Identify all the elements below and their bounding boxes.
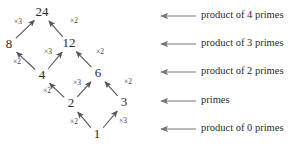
diagram-node-1: 1	[94, 126, 101, 141]
edge-multiplier-label: ×3	[44, 47, 52, 56]
edge-multiplier-label: ×3	[73, 78, 81, 87]
edge-multiplier-label: ×2	[96, 47, 104, 56]
diagram-node-24: 24	[36, 4, 50, 19]
diagram-edge	[49, 21, 63, 37]
edge-multiplier-label: ×2	[124, 77, 132, 86]
legend-label-lvl2: product of 2 primes	[201, 65, 284, 76]
legend-layer: product of 4 primesproduct of 3 primespr…	[161, 9, 284, 133]
edge-multiplier-label: ×3	[119, 116, 127, 125]
edge-multiplier-label: ×3	[14, 17, 22, 26]
figure-root: ×3×2×2×3×2×2×3×2×2×3 2481246231 product …	[0, 0, 306, 146]
legend-label-lvl3: product of 3 primes	[201, 37, 284, 48]
diagram-node-8: 8	[6, 36, 13, 51]
diagram-node-2: 2	[68, 95, 75, 110]
legend-label-lvl1: primes	[201, 94, 230, 105]
edge-multiplier-label: ×2	[43, 86, 51, 95]
edge-multiplier-label: ×2	[70, 117, 78, 126]
diagram-edge	[105, 82, 118, 96]
diagram-node-6: 6	[95, 65, 102, 80]
diagram-edge	[103, 111, 117, 128]
legend-label-lvl0: product of 0 primes	[201, 122, 284, 133]
diagram-edge	[76, 52, 91, 68]
diagram-edge	[50, 83, 65, 97]
edge-multiplier-label: ×2	[70, 16, 78, 25]
diagram-node-12: 12	[63, 35, 76, 50]
diagram-edge	[78, 112, 91, 128]
diagram-node-3: 3	[121, 94, 128, 109]
edge-multiplier-label: ×2	[13, 57, 21, 66]
diagram-node-4: 4	[39, 67, 46, 82]
legend-label-lvl4: product of 4 primes	[201, 9, 284, 20]
hasse-diagram: ×3×2×2×3×2×2×3×2×2×3 2481246231 product …	[0, 0, 306, 146]
